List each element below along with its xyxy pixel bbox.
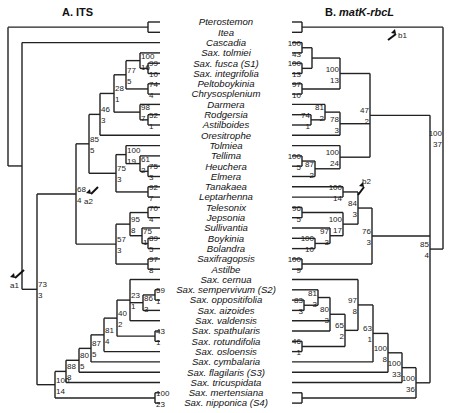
decay-index: 5	[80, 362, 85, 371]
bootstrap-value: 46	[292, 337, 301, 346]
bootstrap-value: 100	[127, 146, 141, 155]
bootstrap-value: 88	[67, 362, 76, 371]
panel-a-title: A. ITS	[62, 6, 93, 18]
b1-arrow-icon	[388, 34, 396, 40]
bootstrap-value: 96	[292, 204, 301, 213]
decay-index: 1	[131, 302, 136, 311]
bootstrap-value: 100	[288, 59, 302, 68]
bootstrap-value: 100	[288, 39, 302, 48]
bootstrap-value: 85	[90, 135, 99, 144]
decay-index: 1	[156, 297, 161, 306]
bootstrap-value: 92	[149, 183, 158, 192]
decay-index: 3	[325, 238, 330, 247]
bootstrap-value: 65	[335, 321, 344, 330]
decay-index: 1	[156, 338, 161, 347]
decay-index: 23	[156, 400, 165, 409]
bootstrap-value: 86	[144, 294, 153, 303]
bootstrap-value: 47	[360, 106, 369, 115]
decay-index: 24	[330, 159, 339, 168]
decay-index: 19	[127, 157, 136, 166]
decay-index: 5	[127, 77, 132, 86]
bootstrap-value: 57	[117, 235, 126, 244]
decay-index: 9	[297, 266, 302, 275]
a2-label: a2	[84, 197, 93, 206]
decay-index: 33	[392, 370, 401, 379]
b2-label: b2	[362, 177, 371, 186]
bootstrap-value: 52	[149, 111, 158, 120]
decay-index: 3	[335, 126, 340, 135]
decay-index: 3	[38, 291, 43, 300]
bootstrap-value: 100	[374, 344, 388, 353]
bootstrap-value: 100	[301, 234, 315, 243]
decay-index: 4	[105, 337, 110, 346]
decay-index: 3	[367, 238, 372, 247]
decay-index: 4	[149, 215, 154, 224]
decay-index: 10	[305, 245, 314, 254]
decay-index: 1	[149, 122, 154, 131]
decay-index: 10	[149, 70, 158, 79]
decay-index: 5	[149, 245, 154, 254]
decay-index: 13	[330, 76, 339, 85]
bootstrap-value: 98	[141, 103, 150, 112]
decay-index: 5	[297, 215, 302, 224]
bootstrap-value: 100	[402, 374, 416, 383]
b2-arrow-icon	[358, 187, 364, 195]
bootstrap-value: 100	[388, 359, 402, 368]
decay-index: 1	[115, 95, 120, 104]
bootstrap-value: 23	[131, 291, 140, 300]
bootstrap-value: 95	[131, 215, 140, 224]
b1-arrowhead-icon	[391, 29, 396, 34]
bootstrap-value: 46	[101, 105, 110, 114]
bootstrap-value: 81	[308, 289, 317, 298]
bootstrap-value: 59	[156, 286, 165, 295]
panel-b-title: B. matK-rbcL	[325, 6, 394, 18]
decay-index: 1	[297, 348, 302, 357]
decay-index: 2	[320, 114, 325, 123]
bootstrap-value: 100	[56, 376, 70, 385]
decay-index: 4	[425, 251, 430, 260]
bootstrap-value: 89	[149, 234, 158, 243]
bootstrap-value: 97	[149, 255, 158, 264]
decay-index: 8	[149, 266, 154, 275]
bootstrap-value: 43	[156, 327, 165, 336]
decay-index: 2	[340, 332, 345, 341]
matk-rbcl-tree	[292, 22, 443, 403]
decay-index: 14	[333, 194, 342, 203]
decay-index: 3	[313, 300, 318, 309]
decay-index: 1	[368, 335, 373, 344]
bootstrap-value: 87	[305, 160, 314, 169]
bootstrap-value: 40	[118, 309, 127, 318]
its-tree	[8, 22, 160, 403]
bootstrap-value: 100	[156, 389, 170, 398]
bootstrap-value: 97	[348, 296, 357, 305]
bootstrap-value: 85	[420, 240, 429, 249]
decay-index: 3	[325, 316, 330, 325]
decay-index: 3	[299, 307, 304, 316]
decay-index: 4	[149, 91, 154, 100]
bootstrap-value: 80	[320, 305, 329, 314]
bootstrap-value: 81	[315, 103, 324, 112]
decay-index: 3	[144, 305, 149, 314]
decay-index: 4	[77, 196, 82, 205]
decay-index: 16	[141, 63, 150, 72]
decay-index: 7	[141, 114, 146, 123]
taxon-label: Sax. nipponica (S4)	[184, 397, 268, 408]
bootstrap-value: 75	[149, 162, 158, 171]
bootstrap-value: 100	[329, 215, 343, 224]
decay-index: 2	[310, 171, 315, 180]
bootstrap-value: 97	[292, 80, 301, 89]
bootstrap-value: 100	[329, 183, 343, 192]
bootstrap-value: 74	[301, 111, 310, 120]
taxon-list: PterostemonIteaCascadiaSax. tolmieiSax. …	[176, 16, 276, 408]
bootstrap-value: 100	[141, 52, 155, 61]
decay-index: 43	[292, 50, 301, 59]
a2-arrowhead-icon	[86, 189, 91, 194]
decay-index: 10	[292, 91, 301, 100]
decay-index: 14	[56, 387, 65, 396]
bootstrap-value: 78	[330, 115, 339, 124]
decay-index: 2	[118, 320, 123, 329]
bootstrap-value: 74	[149, 80, 158, 89]
decay-index: 2	[141, 166, 146, 175]
decay-index: 1	[143, 238, 148, 247]
bootstrap-value: 28	[115, 84, 124, 93]
